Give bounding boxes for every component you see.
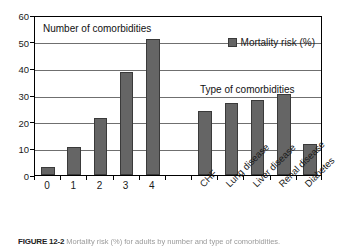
annotation-group2: Type of comorbidities: [200, 84, 295, 95]
bar: [94, 118, 108, 175]
bar: [41, 167, 55, 175]
y-axis: 0102030405060: [0, 16, 34, 176]
bar: [146, 39, 160, 175]
legend-swatch-mortality-risk: [228, 38, 237, 47]
x-tick-mark: [165, 176, 166, 180]
caption-label: FIGURE 12-2: [18, 237, 64, 246]
y-tick-label: 20: [18, 118, 29, 127]
y-tick-label: 30: [18, 92, 29, 101]
x-tick-mark: [139, 176, 140, 180]
x-tick-mark: [191, 176, 192, 180]
x-tick-label: 0: [44, 181, 50, 191]
bar: [67, 147, 81, 175]
x-tick-mark: [113, 176, 114, 180]
caption-text: Mortality risk (%) for adults by number …: [66, 237, 280, 246]
legend: Mortality risk (%): [228, 37, 315, 48]
annotation-group1: Number of comorbidities: [43, 23, 151, 34]
y-tick-label: 0: [24, 172, 29, 181]
bar: [120, 72, 134, 175]
x-tick-mark: [243, 176, 244, 180]
x-tick-mark: [86, 176, 87, 180]
bar: [198, 111, 212, 175]
x-tick-label: 4: [149, 181, 155, 191]
y-tick-label: 40: [18, 65, 29, 74]
y-tick-label: 10: [18, 145, 29, 154]
x-tick-mark: [60, 176, 61, 180]
figure-caption: FIGURE 12-2 Mortality risk (%) for adult…: [18, 237, 318, 246]
x-tick-label: 3: [123, 181, 129, 191]
legend-label-mortality-risk: Mortality risk (%): [241, 37, 315, 48]
y-tick-label: 50: [18, 38, 29, 47]
x-tick-label: 2: [97, 181, 103, 191]
x-tick-mark: [34, 176, 35, 180]
bar: [225, 103, 239, 175]
x-tick-label: 1: [70, 181, 76, 191]
y-tick-label: 60: [18, 12, 29, 21]
